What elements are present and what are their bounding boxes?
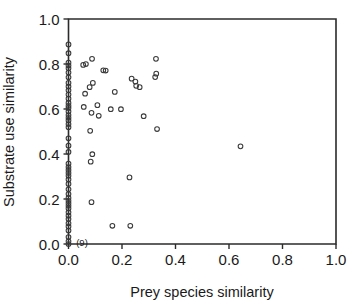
y-tick-label: 0.8 [39,56,60,73]
data-point [119,107,124,112]
x-tick-label: 0.2 [112,251,133,268]
y-tick-label: 1.0 [39,11,60,28]
axis-tick-labels: 0.00.20.40.60.81.00.00.20.40.60.81.0 [39,11,347,269]
overlap-count-annotation: (9) [76,237,88,248]
x-tick-label: 1.0 [326,251,347,268]
data-point [155,127,160,132]
plot-annotations: (9) [76,237,88,248]
data-point [127,175,132,180]
plot-canvas: 0.00.20.40.60.81.00.00.20.40.60.81.0 (9)… [0,0,356,308]
x-tick-label: 0.4 [165,251,186,268]
data-point [112,90,117,95]
y-tick-label: 0.4 [39,146,60,163]
data-markers [66,42,243,246]
data-point [95,103,100,108]
data-point [141,114,146,119]
x-axis-title: Prey species similarity [130,284,274,300]
data-point [89,200,94,205]
y-tick-label: 0.2 [39,191,60,208]
data-point [88,159,93,164]
data-point [88,128,93,133]
data-point [83,91,88,96]
data-point [110,223,115,228]
data-point [89,110,94,115]
plot-frame [69,19,337,244]
data-point [87,85,92,90]
data-point [96,113,101,118]
data-point [90,152,95,157]
data-point [128,223,133,228]
data-point [238,144,243,149]
x-tick-label: 0.8 [272,251,293,268]
data-point [154,56,159,61]
data-point [81,105,86,110]
axes-box [69,19,337,244]
y-tick-label: 0.0 [39,236,60,253]
x-tick-label: 0.6 [219,251,240,268]
data-point [90,81,95,86]
scatter-plot-figure: 0.00.20.40.60.81.00.00.20.40.60.81.0 (9)… [0,0,356,308]
y-tick-label: 0.6 [39,101,60,118]
data-point [108,107,113,112]
axis-ticks [64,19,337,249]
x-tick-label: 0.0 [58,251,79,268]
y-axis-title: Substrate use similarity [1,56,17,207]
data-point [90,56,95,61]
